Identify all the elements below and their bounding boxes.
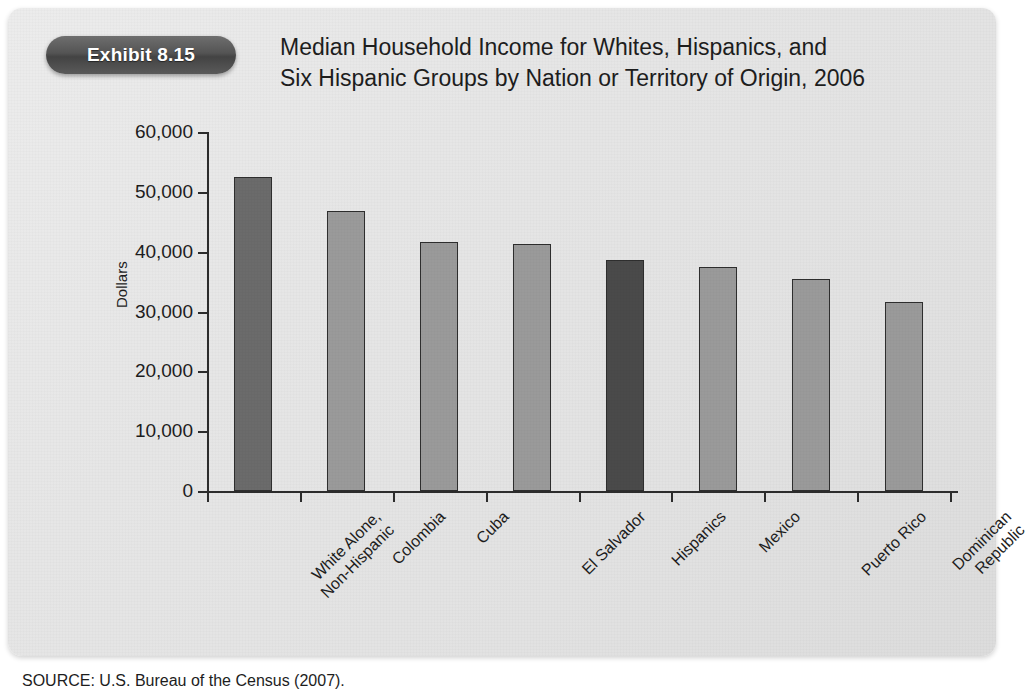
x-axis-tick-mark	[857, 493, 859, 502]
x-axis-category-label: White Alone,Non-Hispanic	[304, 507, 399, 602]
x-axis-tick-mark	[300, 493, 302, 502]
y-axis-tick-mark	[198, 252, 207, 254]
x-axis-category-label: Colombia	[388, 507, 449, 568]
bar	[513, 244, 551, 491]
y-axis-title: Dollars	[113, 261, 130, 308]
x-axis-category-label-line: Hispanics	[668, 508, 729, 569]
x-axis-category-label-line: Mexico	[755, 508, 803, 556]
source-note: SOURCE: U.S. Bureau of the Census (2007)…	[22, 672, 345, 690]
bar	[234, 177, 272, 491]
bar	[792, 279, 830, 491]
y-axis-tick-mark	[198, 431, 207, 433]
bar	[699, 267, 737, 491]
x-axis-tick-mark	[950, 493, 952, 502]
x-axis-tick-mark	[486, 493, 488, 502]
y-axis-tick-label: 20,000	[135, 360, 193, 382]
x-axis-category-label: Puerto Rico	[857, 507, 930, 580]
x-axis-tick-mark	[207, 493, 209, 502]
x-axis-category-label: Cuba	[472, 507, 512, 547]
x-axis-tick-mark	[579, 493, 581, 502]
x-axis-category-label: El Salvador	[578, 507, 649, 578]
x-axis-category-label: Mexico	[755, 507, 804, 556]
y-axis-tick-mark	[198, 192, 207, 194]
x-axis-tick-mark	[764, 493, 766, 502]
exhibit-card: Exhibit 8.15 Median Household Income for…	[8, 8, 996, 656]
chart-title: Median Household Income for Whites, Hisp…	[280, 32, 980, 94]
chart-title-line-2: Six Hispanic Groups by Nation or Territo…	[280, 63, 980, 94]
chart-plot-area: 010,00020,00030,00040,00050,00060,000 Wh…	[207, 132, 950, 493]
y-axis-line	[207, 132, 209, 493]
x-axis-category-label: Hispanics	[667, 507, 729, 569]
y-axis-tick-mark	[198, 312, 207, 314]
y-axis-tick-label: 0	[182, 480, 193, 502]
y-axis-tick-label: 60,000	[135, 121, 193, 143]
exhibit-badge-label: Exhibit 8.15	[87, 44, 195, 66]
x-axis-tick-mark	[393, 493, 395, 502]
y-axis-tick-mark	[198, 371, 207, 373]
chart-plot-wrapper: 010,00020,00030,00040,00050,00060,000 Wh…	[8, 8, 996, 656]
x-axis-category-label-line: El Salvador	[579, 508, 649, 578]
bar	[420, 242, 458, 491]
y-axis-tick-label: 50,000	[135, 181, 193, 203]
y-axis-tick-label: 30,000	[135, 301, 193, 323]
bar	[885, 302, 923, 491]
x-axis-category-label-line: Colombia	[389, 508, 449, 568]
exhibit-badge: Exhibit 8.15	[46, 36, 236, 74]
chart-title-line-1: Median Household Income for Whites, Hisp…	[280, 32, 980, 63]
bar	[606, 260, 644, 491]
x-axis-tick-mark	[671, 493, 673, 502]
x-axis-category-label-line: Cuba	[473, 508, 512, 547]
x-axis-category-label-line: Puerto Rico	[858, 508, 929, 579]
x-axis-category-label: DominicanRepublic	[948, 507, 1028, 587]
bar	[327, 211, 365, 491]
x-axis-line	[207, 491, 958, 493]
y-axis-tick-mark	[198, 491, 207, 493]
y-axis-tick-mark	[198, 132, 207, 134]
y-axis-tick-label: 10,000	[135, 420, 193, 442]
y-axis-tick-label: 40,000	[135, 241, 193, 263]
